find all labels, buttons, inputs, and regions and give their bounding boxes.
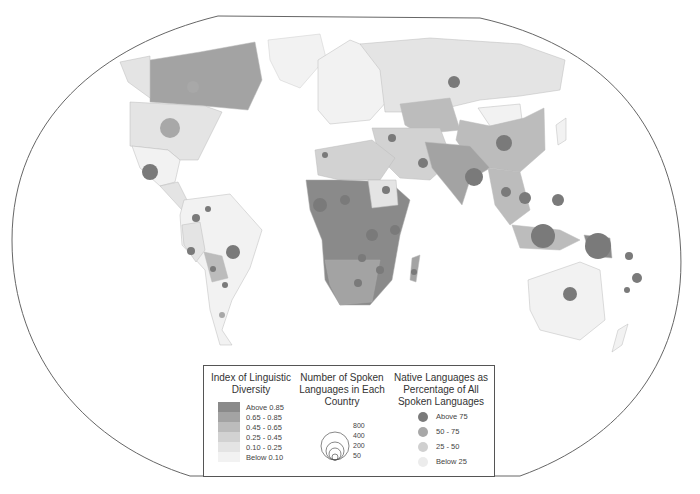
size-legend-circles: 800 400 200 50 (317, 406, 377, 466)
diversity-item: 0.25 - 0.45 (218, 432, 302, 442)
legend: Index of Linguistic Diversity Number of … (203, 365, 495, 477)
svg-text:200: 200 (353, 442, 365, 449)
size-legend-title: Number of Spoken Languages in Each Count… (297, 372, 387, 408)
diversity-legend-title: Index of Linguistic Diversity (208, 372, 294, 396)
diversity-swatches: Above 0.85 0.65 - 0.85 0.45 - 0.65 0.25 … (218, 402, 302, 462)
native-pct-legend: Above 75 50 - 75 25 - 50 Below 25 (418, 409, 468, 469)
svg-text:400: 400 (353, 432, 365, 439)
diversity-item: Above 0.85 (218, 402, 302, 412)
native-item: 25 - 50 (418, 439, 468, 454)
native-item: 50 - 75 (418, 424, 468, 439)
native-item: Above 75 (418, 409, 468, 424)
diversity-item: 0.10 - 0.25 (218, 442, 302, 452)
native-legend-title: Native Languages as Percentage of All Sp… (389, 372, 493, 408)
diversity-item: 0.45 - 0.65 (218, 422, 302, 432)
diversity-item: Below 0.10 (218, 452, 302, 462)
diversity-item: 0.65 - 0.85 (218, 412, 302, 422)
sudan (368, 180, 398, 208)
svg-text:800: 800 (353, 422, 365, 429)
native-item: Below 25 (418, 454, 468, 469)
svg-text:50: 50 (353, 452, 361, 459)
